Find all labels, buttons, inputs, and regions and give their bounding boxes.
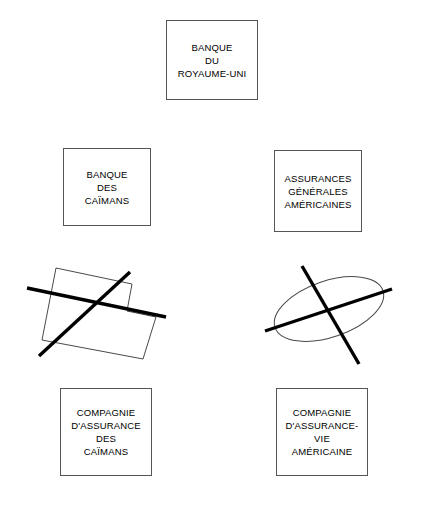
entity-label-compagnie-assurance-vie-americaine: COMPAGNIE D'ASSURANCE- VIE AMÉRICAINE — [282, 406, 363, 458]
entity-box-compagnie-assurance-vie-americaine[interactable]: COMPAGNIE D'ASSURANCE- VIE AMÉRICAINE — [276, 388, 368, 476]
crossed-polygon-group — [27, 268, 166, 359]
polygon-cross-stroke-b — [39, 272, 130, 356]
entity-label-compagnie-assurance-des-caimans: COMPAGNIE D'ASSURANCE DES CAÏMANS — [67, 406, 144, 458]
ellipse-cross-stroke-b — [302, 266, 359, 364]
diagram-canvas: BANQUE DU ROYAUME-UNI BANQUE DES CAÏMANS… — [0, 0, 427, 507]
entity-label-banque-du-royaume-uni: BANQUE DU ROYAUME-UNI — [174, 41, 251, 80]
entity-box-assurances-generales-americaines[interactable]: ASSURANCES GÉNÉRALES AMÉRICAINES — [274, 150, 362, 232]
crossed-ellipse-group — [265, 264, 392, 364]
entity-label-banque-des-caimans: BANQUE DES CAÏMANS — [81, 168, 133, 207]
ellipse-outline — [266, 264, 392, 354]
l-shaped-polygon-outline — [42, 268, 156, 359]
entity-box-compagnie-assurance-des-caimans[interactable]: COMPAGNIE D'ASSURANCE DES CAÏMANS — [60, 388, 152, 476]
polygon-cross-stroke-a — [27, 288, 166, 317]
entity-label-assurances-generales-americaines: ASSURANCES GÉNÉRALES AMÉRICAINES — [280, 172, 355, 211]
entity-box-banque-du-royaume-uni[interactable]: BANQUE DU ROYAUME-UNI — [166, 20, 258, 100]
ellipse-cross-stroke-a — [265, 289, 392, 331]
entity-box-banque-des-caimans[interactable]: BANQUE DES CAÏMANS — [63, 148, 151, 226]
